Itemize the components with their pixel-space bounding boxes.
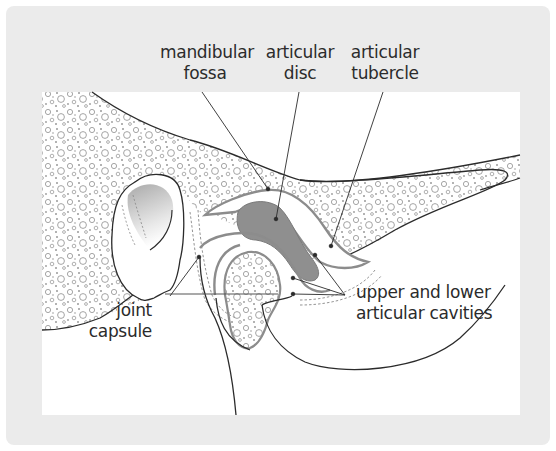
mandibular-condyle: [216, 252, 280, 350]
label-line: joint: [72, 300, 152, 321]
label-mandibular-fossa: mandibular fossa: [160, 42, 250, 84]
label-articular-disc: articular disc: [260, 42, 340, 84]
label-line: fossa: [160, 63, 250, 84]
label-line: tubercle: [340, 63, 430, 84]
label-line: articular: [340, 42, 430, 63]
label-joint-capsule: joint capsule: [72, 300, 152, 342]
label-line: mandibular: [160, 42, 250, 63]
label-articular-cavities: upper and lower articular cavities: [356, 282, 506, 324]
label-articular-tubercle: articular tubercle: [340, 42, 430, 84]
label-line: disc: [260, 63, 340, 84]
label-line: articular: [260, 42, 340, 63]
label-line: articular cavities: [356, 303, 506, 324]
label-line: capsule: [72, 321, 152, 342]
external-ear-canal: [112, 174, 184, 300]
label-line: upper and lower: [356, 282, 506, 303]
